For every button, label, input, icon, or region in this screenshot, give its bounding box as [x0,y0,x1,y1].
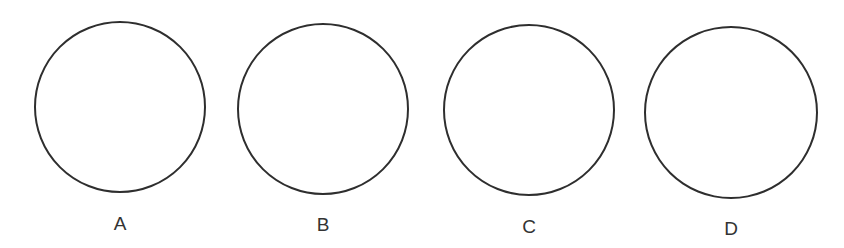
circle-d [644,26,818,199]
circle-b-label: B [303,215,343,235]
circle-a-label: A [100,214,140,234]
circle-a [34,21,206,193]
circle-c-label: C [509,217,549,237]
circle-b [237,23,409,195]
circle-c [443,24,615,196]
circle-d-label: D [711,219,751,239]
circles-diagram: A B C D [0,0,844,248]
